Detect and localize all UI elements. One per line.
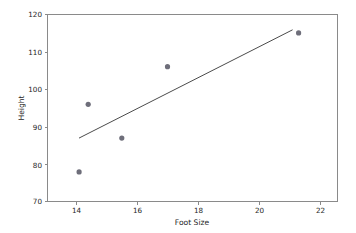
scatter-plot-figure: 120 110 100 90 80 70 14 16 18 20 22 Foot…	[0, 0, 356, 233]
axes-frame	[48, 15, 338, 202]
y-tick-label-120: 120	[28, 10, 42, 19]
x-axis-tick-labels: 14 16 18 20 22	[72, 206, 325, 215]
y-tick-label-100: 100	[28, 85, 42, 94]
y-tick-label-90: 90	[33, 123, 43, 132]
y-tick-label-80: 80	[33, 161, 43, 170]
regression-line	[79, 30, 293, 138]
x-tick-label-20: 20	[255, 206, 265, 215]
data-point	[165, 64, 170, 69]
y-tick-label-110: 110	[28, 48, 42, 57]
data-points-group	[77, 30, 302, 174]
x-tick-label-18: 18	[194, 206, 204, 215]
y-axis-tick-labels: 120 110 100 90 80 70	[28, 10, 42, 206]
plot-canvas: 120 110 100 90 80 70 14 16 18 20 22 Foot…	[0, 0, 356, 233]
data-point	[119, 136, 124, 141]
y-axis-title: Height	[17, 95, 26, 120]
x-tick-label-22: 22	[316, 206, 325, 215]
y-tick-label-70: 70	[33, 197, 43, 206]
data-point	[296, 30, 301, 35]
x-axis-title: Foot Size	[175, 218, 210, 227]
x-tick-label-16: 16	[133, 206, 143, 215]
x-tick-label-14: 14	[72, 206, 82, 215]
data-point	[77, 169, 82, 174]
data-point	[86, 102, 91, 107]
